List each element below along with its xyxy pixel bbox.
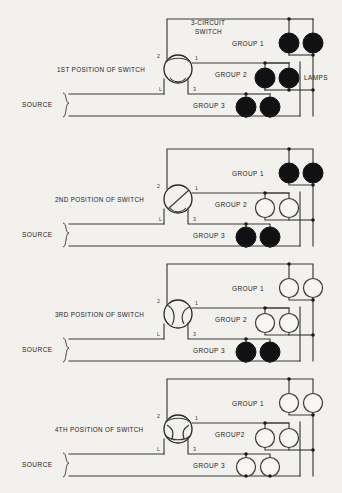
junction-node [311, 413, 315, 417]
junction-node [244, 474, 248, 478]
group-label: GROUP 3 [193, 462, 225, 469]
junction-node [287, 17, 291, 21]
group-label: GROUP 3 [193, 102, 225, 109]
lead-terminal-3-to-group3 [188, 438, 246, 454]
switch-symbol-1st[interactable]: 2 1 3 L [157, 53, 198, 92]
lamp-group2-b [280, 314, 299, 333]
junction-node [263, 61, 267, 65]
junction-node [263, 191, 267, 195]
source-brace [63, 93, 69, 117]
junction-node [311, 218, 315, 222]
lamp-group3-b [261, 458, 280, 477]
lamp-group2-a [255, 68, 275, 88]
switch-label-line2: SWITCH [195, 28, 222, 35]
switch-symbol-2nd[interactable]: 2 1 3 L [157, 183, 198, 222]
lead-terminal-2-to-group1 [167, 264, 289, 304]
lamp-group3-b [260, 342, 280, 362]
lead-terminal-2-to-group1 [167, 379, 289, 419]
terminal-label-2: 2 [157, 183, 160, 189]
lamp-group2-b [280, 199, 299, 218]
group-label: GROUP 1 [232, 170, 264, 177]
source-brace [63, 338, 69, 362]
terminal-label-2: 2 [157, 53, 160, 59]
junction-node [268, 474, 272, 478]
lamp-group1-b [303, 163, 323, 183]
panel-1st-position: 1ST POSITION OF SWITCH SOURCE 3-CIRCUIT … [22, 17, 328, 118]
switch-symbol-4th[interactable]: 2 1 3 L [157, 413, 198, 452]
terminal-label-2: 2 [157, 298, 160, 304]
junction-node [268, 244, 272, 248]
terminal-label-L: L [157, 331, 160, 337]
lead-terminal-3-to-group3 [188, 323, 246, 339]
terminal-label-L: L [159, 86, 162, 92]
source-label: SOURCE [22, 346, 53, 353]
lamp-group3-a [236, 97, 256, 117]
lamp-group1-a [280, 394, 299, 413]
panel-2nd-position: 2ND POSITION OF SWITCH SOURCE 2 1 3 L GR… [22, 147, 323, 248]
junction-node [263, 306, 267, 310]
lamp-group1-a [279, 163, 299, 183]
source-label: SOURCE [22, 101, 53, 108]
source-brace [63, 453, 69, 477]
group-label: GROUP 3 [193, 347, 225, 354]
lamp-group2-a [256, 199, 275, 218]
lamp-group3-a [237, 458, 256, 477]
junction-node [311, 53, 315, 57]
panel-position-label: 4TH POSITION OF SWITCH [55, 426, 144, 433]
junction-node [311, 448, 315, 452]
group-label: GROUP 1 [232, 40, 264, 47]
lamp-group3-a [236, 342, 256, 362]
lamp-group1-b [304, 279, 323, 298]
source-brace [63, 223, 69, 247]
terminal-label-1: 1 [195, 185, 198, 191]
terminal-label-1: 1 [195, 55, 198, 61]
terminal-label-L: L [157, 446, 160, 452]
panel-position-label: 3RD POSITION OF SWITCH [55, 311, 144, 318]
junction-node [311, 298, 315, 302]
panel-3rd-position: 3RD POSITION OF SWITCH SOURCE 2 1 3 L GR… [22, 262, 323, 363]
junction-node [244, 114, 248, 118]
junction-node [311, 88, 315, 92]
lamp-group2-b [279, 68, 299, 88]
junction-node [268, 359, 272, 363]
lamp-group1-a [280, 279, 299, 298]
lamp-group2-a [256, 429, 275, 448]
lamp-group2-b [280, 429, 299, 448]
switch-symbol-3rd[interactable]: 2 1 3 L [157, 298, 198, 337]
junction-node [311, 183, 315, 187]
lamps-label: LAMPS [304, 74, 328, 81]
switch-label-line1: 3-CIRCUIT [191, 19, 225, 26]
junction-node [287, 88, 291, 92]
group-label: GROUP 2 [215, 316, 247, 323]
group-label: GROUP 3 [193, 232, 225, 239]
lamp-group3-b [260, 227, 280, 247]
group-label: GROUP 2 [215, 201, 247, 208]
junction-node [244, 452, 248, 456]
group-label: GROUP 2 [215, 71, 247, 78]
group-label: GROUP2 [215, 431, 245, 438]
group-label: GROUP 1 [232, 285, 264, 292]
lamp-group3-b [260, 97, 280, 117]
lamp-group2-a [256, 314, 275, 333]
terminal-label-3: 3 [193, 86, 196, 92]
terminal-label-1: 1 [195, 415, 198, 421]
junction-node [244, 92, 248, 96]
lead-terminal-2-to-group1 [167, 149, 289, 189]
group-label: GROUP 1 [232, 400, 264, 407]
lamp-group1-b [304, 394, 323, 413]
junction-node [287, 262, 291, 266]
junction-node [244, 337, 248, 341]
source-label: SOURCE [22, 461, 53, 468]
junction-node [244, 359, 248, 363]
junction-node [268, 114, 272, 118]
lead-terminal-3-to-group3 [188, 208, 246, 224]
junction-node [287, 377, 291, 381]
terminal-label-3: 3 [193, 331, 196, 337]
junction-node [263, 421, 267, 425]
panel-position-label: 2ND POSITION OF SWITCH [55, 196, 144, 203]
lamp-group3-a [236, 227, 256, 247]
source-label: SOURCE [22, 231, 53, 238]
junction-node [287, 147, 291, 151]
junction-node [311, 333, 315, 337]
panel-4th-position: 4TH POSITION OF SWITCH SOURCE 2 1 3 L GR… [22, 377, 323, 478]
